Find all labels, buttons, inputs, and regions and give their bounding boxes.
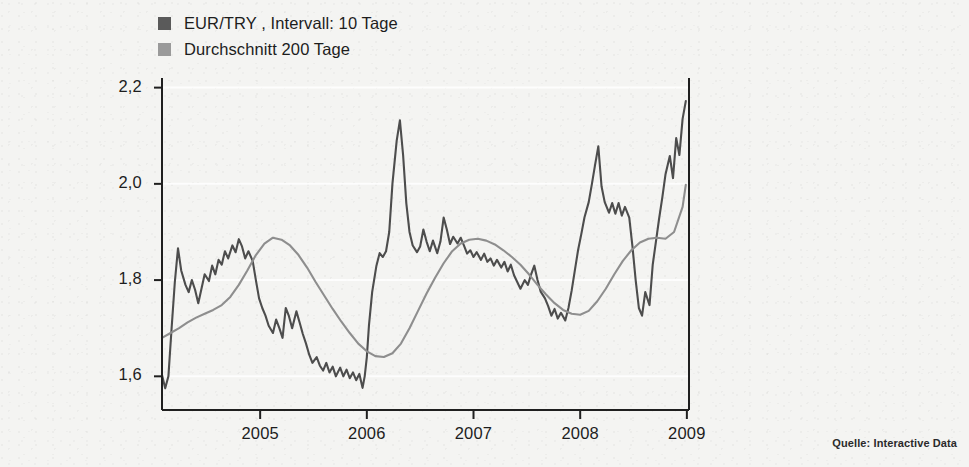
x-axis-tick-label: 2008 [550,424,610,443]
y-axis-tick-label: 1,6 [94,365,142,384]
data-series-group [162,101,686,388]
x-axis-tick-label: 2007 [444,424,504,443]
x-axis-tick-label: 2006 [337,424,397,443]
gridline-group [162,88,689,377]
source-attribution: Quelle: Interactive Data [832,437,957,449]
tick-mark-group [154,88,687,419]
y-axis-tick-label: 2,0 [94,173,142,192]
y-axis-tick-label: 2,2 [94,77,142,96]
series-line-0 [162,101,686,388]
y-axis-tick-label: 1,8 [94,269,142,288]
line-chart-plot [0,0,969,467]
x-axis-tick-label: 2009 [657,424,717,443]
x-axis-tick-label: 2005 [230,424,290,443]
